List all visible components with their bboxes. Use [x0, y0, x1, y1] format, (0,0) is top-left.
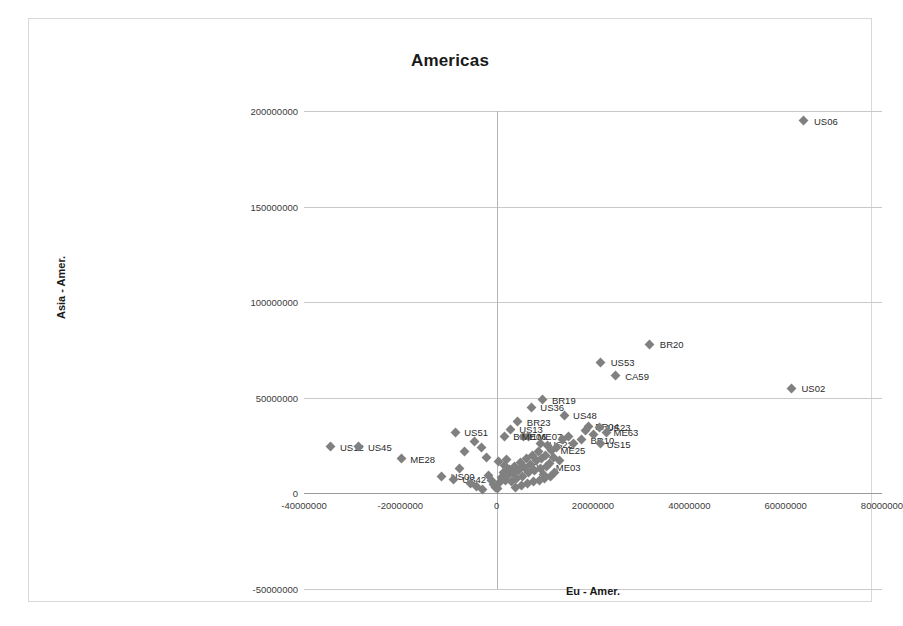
data-point-label: US15 — [607, 438, 631, 449]
data-point-label: ME28 — [410, 453, 435, 464]
data-point — [596, 357, 606, 367]
data-point — [437, 471, 447, 481]
x-axis-line — [304, 493, 882, 494]
chart-container: Americas 2000000001500000001000000005000… — [28, 18, 872, 602]
data-point-label: US48 — [573, 410, 597, 421]
x-axis-title: Eu - Amer. — [304, 585, 882, 597]
data-point-label: ME63 — [613, 427, 638, 438]
data-point-label: BR20 — [660, 339, 684, 350]
data-point — [460, 446, 470, 456]
data-point — [450, 427, 460, 437]
y-axis-tick-label: 200000000 — [250, 106, 298, 117]
x-axis-tick-label: -20000000 — [378, 500, 423, 511]
plot-area: 200000000150000000100000000500000000-500… — [304, 111, 882, 589]
data-point — [610, 371, 620, 381]
y-axis-line — [497, 111, 498, 589]
y-axis-tick-label: 0 — [293, 488, 298, 499]
x-axis-tick-label: 40000000 — [668, 500, 710, 511]
y-axis-title: Asia - Amer. — [55, 256, 67, 319]
data-point-label: US06 — [814, 115, 838, 126]
data-point-label: US53 — [611, 357, 635, 368]
y-axis-tick-label: 50000000 — [256, 392, 298, 403]
data-point — [786, 383, 796, 393]
data-point-label: US36 — [540, 402, 564, 413]
data-point — [645, 339, 655, 349]
y-gridline — [304, 302, 882, 303]
data-point-label: CA59 — [625, 370, 649, 381]
y-gridline — [304, 111, 882, 112]
y-axis-tick-label: -50000000 — [253, 584, 298, 595]
x-axis-tick-label: 60000000 — [765, 500, 807, 511]
data-point — [799, 116, 809, 126]
data-point-label: US51 — [464, 427, 488, 438]
x-axis-tick-label: 20000000 — [572, 500, 614, 511]
y-gridline — [304, 207, 882, 208]
chart-title: Americas — [29, 51, 871, 71]
data-point — [396, 454, 406, 464]
y-gridline — [304, 398, 882, 399]
data-point — [326, 442, 336, 452]
x-axis-tick-label: 80000000 — [861, 500, 903, 511]
data-point — [481, 452, 491, 462]
x-axis-tick-label: -40000000 — [281, 500, 326, 511]
y-axis-tick-label: 150000000 — [250, 201, 298, 212]
data-point-label: US45 — [368, 441, 392, 452]
data-point — [526, 402, 536, 412]
x-axis-tick-label: 0 — [494, 500, 499, 511]
y-axis-tick-label: 100000000 — [250, 297, 298, 308]
data-point — [476, 443, 486, 453]
data-point-label: US02 — [801, 383, 825, 394]
